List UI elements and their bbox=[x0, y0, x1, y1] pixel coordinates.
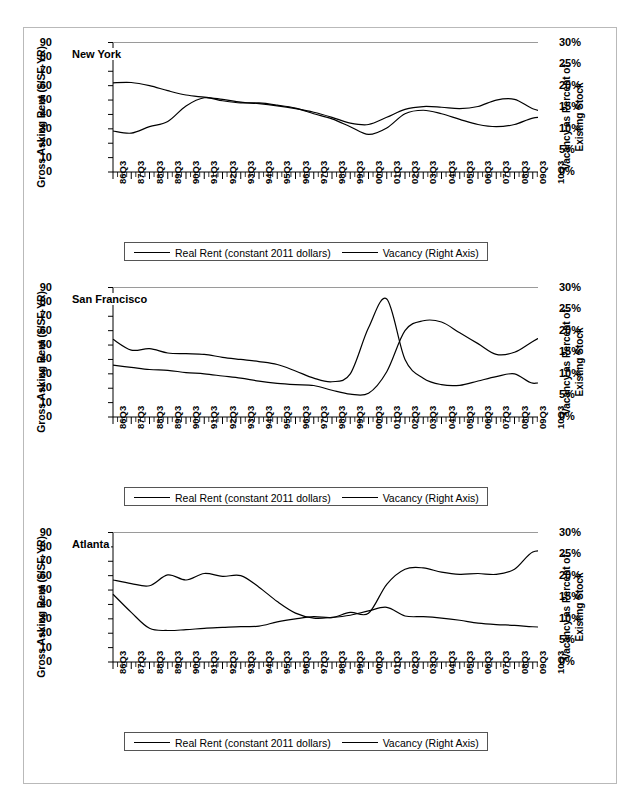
chart-panel-new-york: Gross Asking Rent ($/SF-YR) Vacancy as P… bbox=[24, 36, 618, 266]
series-line-real-rent bbox=[113, 82, 538, 125]
y-axis-right-tick-label: 30% bbox=[559, 36, 593, 48]
x-axis-tick-label: 09Q3 bbox=[537, 651, 548, 674]
x-axis-tick-label: 01Q3 bbox=[391, 161, 402, 184]
y-axis-left-tick-label: 10 bbox=[28, 396, 52, 408]
y-axis-left-tick-label: 70 bbox=[28, 64, 52, 76]
y-axis-left-tick-label: 40 bbox=[28, 107, 52, 119]
legend-label-vacancy: Vacancy (Right Axis) bbox=[383, 737, 479, 749]
x-axis-ticks: 86Q387Q388Q389Q390Q391Q392Q393Q394Q395Q3… bbox=[60, 666, 538, 726]
y-axis-left-tick-label: 70 bbox=[28, 309, 52, 321]
x-axis-tick-label: 91Q3 bbox=[208, 651, 219, 674]
x-axis-tick-label: 00Q3 bbox=[373, 161, 384, 184]
y-axis-right-tick-label: 10% bbox=[559, 612, 593, 624]
x-axis-tick-label: 99Q3 bbox=[354, 406, 365, 429]
x-axis-tick-label: 86Q3 bbox=[117, 651, 128, 674]
legend-swatch-real-rent bbox=[134, 742, 170, 743]
x-axis-tick-label: 93Q3 bbox=[245, 406, 256, 429]
x-axis-tick-label: 89Q3 bbox=[172, 651, 183, 674]
legend-label-vacancy: Vacancy (Right Axis) bbox=[383, 492, 479, 504]
y-axis-left-tick-label: 0 bbox=[28, 165, 52, 177]
axes-group bbox=[113, 533, 538, 663]
x-axis-tick-label: 87Q3 bbox=[135, 651, 146, 674]
x-axis-tick-label: 05Q3 bbox=[464, 651, 475, 674]
x-axis-tick-label: 99Q3 bbox=[354, 161, 365, 184]
x-axis-tick-label: 08Q3 bbox=[519, 161, 530, 184]
x-axis-tick-label: 87Q3 bbox=[135, 406, 146, 429]
x-axis-tick-label: 96Q3 bbox=[300, 406, 311, 429]
figure-frame: Gross Asking Rent ($/SF-YR) Vacancy as P… bbox=[23, 27, 617, 784]
x-axis-tick-label: 90Q3 bbox=[190, 161, 201, 184]
y-axis-left-tick-label: 50 bbox=[28, 583, 52, 595]
y-axis-left-tick-label: 50 bbox=[28, 338, 52, 350]
x-axis-ticks: 86Q387Q388Q389Q390Q391Q392Q393Q394Q395Q3… bbox=[60, 176, 538, 236]
y-axis-left-tick-label: 80 bbox=[28, 540, 52, 552]
legend-label-vacancy: Vacancy (Right Axis) bbox=[383, 247, 479, 259]
y-axis-right-tick-label: 20% bbox=[559, 324, 593, 336]
x-axis-tick-label: 87Q3 bbox=[135, 161, 146, 184]
y-axis-left-tick-label: 40 bbox=[28, 597, 52, 609]
x-axis-tick-label: 95Q3 bbox=[281, 406, 292, 429]
legend-label-real-rent: Real Rent (constant 2011 dollars) bbox=[175, 492, 331, 504]
chart-panel-san-francisco: Gross Asking Rent ($/SF-YR) Vacancy as P… bbox=[24, 281, 618, 511]
x-axis-tick-label: 02Q3 bbox=[409, 161, 420, 184]
x-axis-tick-label: 08Q3 bbox=[519, 406, 530, 429]
legend-swatch-vacancy bbox=[342, 742, 378, 743]
x-axis-tick-label: 94Q3 bbox=[263, 651, 274, 674]
x-axis-tick-label: 06Q3 bbox=[482, 406, 493, 429]
x-axis-tick-label: 94Q3 bbox=[263, 161, 274, 184]
series-line-real-rent bbox=[113, 573, 538, 627]
panel-title: Atlanta bbox=[70, 538, 111, 550]
chart-panel-atlanta: Gross Asking Rent ($/SF-YR) Vacancy as P… bbox=[24, 526, 618, 756]
legend: Real Rent (constant 2011 dollars)Vacancy… bbox=[124, 487, 488, 506]
x-axis-tick-label: 03Q3 bbox=[427, 406, 438, 429]
legend-swatch-vacancy bbox=[342, 497, 378, 498]
x-axis-tick-label: 97Q3 bbox=[318, 406, 329, 429]
x-axis-tick-label: 10Q3 bbox=[555, 406, 566, 429]
x-axis-tick-label: 86Q3 bbox=[117, 161, 128, 184]
y-axis-right-tick-label: 15% bbox=[559, 590, 593, 602]
legend-swatch-vacancy bbox=[342, 252, 378, 253]
y-axis-right-title-line2: Existing Stock bbox=[574, 83, 585, 152]
x-axis-tick-label: 96Q3 bbox=[300, 651, 311, 674]
x-axis-tick-label: 92Q3 bbox=[227, 651, 238, 674]
y-axis-right-tick-label: 5% bbox=[559, 143, 593, 155]
y-axis-right-tick-label: 5% bbox=[559, 633, 593, 645]
x-axis-tick-label: 07Q3 bbox=[500, 406, 511, 429]
y-axis-left-tick-label: 60 bbox=[28, 324, 52, 336]
legend-label-real-rent: Real Rent (constant 2011 dollars) bbox=[175, 737, 331, 749]
x-axis-tick-label: 90Q3 bbox=[190, 406, 201, 429]
series-line-vacancy bbox=[113, 320, 538, 395]
x-axis-tick-label: 05Q3 bbox=[464, 406, 475, 429]
y-axis-right-tick-label: 30% bbox=[559, 281, 593, 293]
x-axis-tick-label: 86Q3 bbox=[117, 406, 128, 429]
x-axis-tick-label: 05Q3 bbox=[464, 161, 475, 184]
y-axis-left-tick-label: 90 bbox=[28, 526, 52, 538]
x-axis-tick-label: 00Q3 bbox=[373, 406, 384, 429]
x-axis-tick-label: 91Q3 bbox=[208, 161, 219, 184]
y-axis-right-tick-label: 10% bbox=[559, 122, 593, 134]
x-axis-tick-label: 93Q3 bbox=[245, 651, 256, 674]
x-axis-tick-label: 06Q3 bbox=[482, 161, 493, 184]
y-axis-left-tick-label: 50 bbox=[28, 93, 52, 105]
y-axis-right-tick-label: 5% bbox=[559, 388, 593, 400]
y-axis-left-tick-label: 60 bbox=[28, 79, 52, 91]
x-axis-tick-label: 98Q3 bbox=[336, 406, 347, 429]
x-axis-tick-label: 02Q3 bbox=[409, 406, 420, 429]
y-axis-right-title-line2: Existing Stock bbox=[574, 328, 585, 397]
y-axis-left-tick-label: 20 bbox=[28, 626, 52, 638]
y-axis-left-tick-label: 90 bbox=[28, 281, 52, 293]
y-axis-left-tick-label: 10 bbox=[28, 641, 52, 653]
y-axis-left-tick-label: 0 bbox=[28, 410, 52, 422]
x-axis-tick-label: 94Q3 bbox=[263, 406, 274, 429]
y-axis-right-title-line2: Existing Stock bbox=[574, 573, 585, 642]
y-axis-right-tick-label: 30% bbox=[559, 526, 593, 538]
x-axis-tick-label: 92Q3 bbox=[227, 406, 238, 429]
y-axis-left-tick-label: 30 bbox=[28, 122, 52, 134]
y-axis-left-tick-label: 80 bbox=[28, 295, 52, 307]
x-axis-tick-label: 02Q3 bbox=[409, 651, 420, 674]
x-axis-tick-label: 10Q3 bbox=[555, 161, 566, 184]
y-axis-right-tick-label: 20% bbox=[559, 79, 593, 91]
panel-title: New York bbox=[70, 48, 123, 60]
y-axis-left-tick-label: 40 bbox=[28, 352, 52, 364]
x-axis-tick-label: 09Q3 bbox=[537, 406, 548, 429]
